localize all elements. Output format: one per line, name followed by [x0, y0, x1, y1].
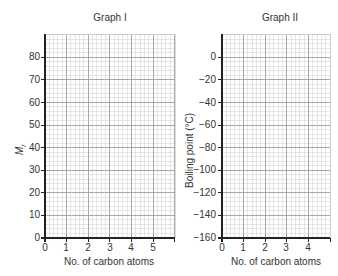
x-tick: 0: [39, 243, 51, 253]
x-tick: 3: [104, 243, 116, 253]
y-tick: −40: [186, 98, 216, 108]
graph1-x-axis-label: No. of carbon atoms: [34, 256, 184, 267]
x-tick: 0: [216, 243, 228, 253]
graph1-y-axis-label-main: M: [14, 147, 25, 155]
y-tick: −20: [186, 75, 216, 85]
y-tick: 80: [10, 52, 40, 62]
x-tick: 3: [280, 243, 292, 253]
graph2-y-axis-label: Boiling point (°C): [184, 113, 195, 188]
y-tick: 30: [10, 165, 40, 175]
x-tick: 4: [302, 243, 314, 253]
graph2-title: Graph II: [240, 12, 320, 23]
x-tick: 5: [147, 243, 159, 253]
x-tick: 1: [237, 243, 249, 253]
y-tick: 60: [10, 98, 40, 108]
y-tick: 0: [10, 233, 40, 243]
x-tick: 2: [82, 243, 94, 253]
y-tick: 50: [10, 120, 40, 130]
x-tick: 4: [125, 243, 137, 253]
y-tick: 0: [186, 52, 216, 62]
y-tick: 70: [10, 75, 40, 85]
x-tick: 2: [259, 243, 271, 253]
y-tick: 20: [10, 188, 40, 198]
y-tick: −120: [186, 188, 216, 198]
graph2-x-axis-label: No. of carbon atoms: [201, 256, 338, 267]
y-tick: −140: [186, 210, 216, 220]
graph1-y-axis-label-sub: r: [20, 144, 27, 146]
y-tick: −160: [186, 233, 216, 243]
graph1-grid: [0, 0, 338, 276]
x-tick: 1: [60, 243, 72, 253]
y-tick: 10: [10, 210, 40, 220]
graph1-y-axis-label: Mr: [14, 144, 27, 155]
